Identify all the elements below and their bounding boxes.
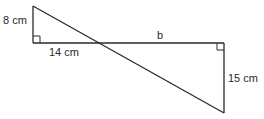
label-b: b [157, 30, 163, 41]
diagonal-line [33, 6, 224, 113]
label-14cm: 14 cm [49, 47, 79, 58]
right-angle-marker-left [33, 36, 40, 43]
label-15cm: 15 cm [228, 73, 258, 84]
label-8cm: 8 cm [3, 15, 27, 26]
similar-triangles-diagram [0, 0, 264, 119]
right-angle-marker-right [217, 43, 224, 50]
